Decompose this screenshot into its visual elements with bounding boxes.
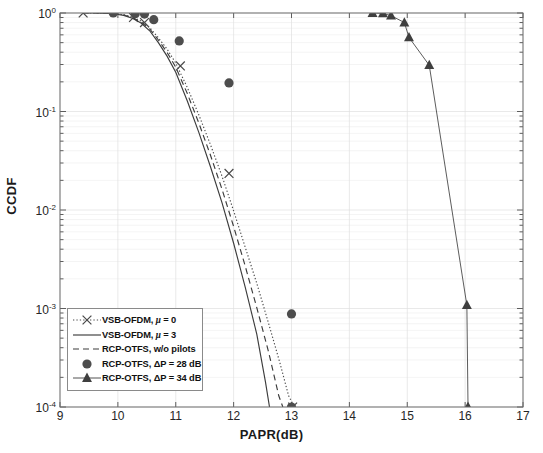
legend-label: RCP-OTFS, ΔP = 34 dB — [102, 373, 201, 383]
x-tick-label: 9 — [57, 409, 64, 423]
legend-item[interactable]: VSB-OFDM, μ = 3 — [72, 328, 197, 343]
legend-sample-line-icon — [72, 342, 102, 356]
legend-sample-x-icon — [72, 313, 102, 327]
chart-figure: 10010-110-210-310-4 91011121314151617 CC… — [0, 0, 543, 453]
legend-item[interactable]: RCP-OTFS, w/o pilots — [72, 342, 197, 357]
chart-legend[interactable]: VSB-OFDM, μ = 0VSB-OFDM, μ = 3RCP-OTFS, … — [67, 308, 203, 391]
y-axis-tick-labels: 10010-110-210-310-4 — [0, 0, 56, 453]
legend-item[interactable]: RCP-OTFS, ΔP = 34 dB — [72, 371, 197, 386]
x-tick-label: 17 — [516, 409, 529, 423]
legend-item[interactable]: RCP-OTFS, ΔP = 28 dB — [72, 357, 197, 372]
y-tick-label: 10-1 — [6, 104, 56, 119]
legend-label: VSB-OFDM, μ = 0 — [102, 315, 176, 325]
legend-sample-triangle-icon — [72, 371, 102, 385]
legend-label: VSB-OFDM, μ = 3 — [102, 330, 176, 340]
series-triangle-solid-thin — [368, 8, 473, 411]
x-axis-label: PAPR(dB) — [0, 427, 543, 442]
x-tick-label: 10 — [111, 409, 124, 423]
x-tick-label: 15 — [401, 409, 414, 423]
x-tick-label: 13 — [285, 409, 298, 423]
y-tick-label: 100 — [6, 6, 56, 21]
y-axis-label: CCDF — [4, 177, 19, 214]
legend-label: RCP-OTFS, w/o pilots — [102, 344, 196, 354]
y-tick-label: 10-3 — [6, 301, 56, 316]
legend-sample-line-icon — [72, 328, 102, 342]
legend-item[interactable]: VSB-OFDM, μ = 0 — [72, 313, 197, 328]
legend-sample-circle-icon — [72, 357, 102, 371]
x-tick-label: 16 — [458, 409, 471, 423]
x-tick-label: 14 — [343, 409, 356, 423]
x-tick-label: 12 — [227, 409, 240, 423]
x-tick-label: 11 — [170, 409, 182, 423]
legend-label: RCP-OTFS, ΔP = 28 dB — [102, 359, 201, 369]
y-tick-label: 10-4 — [6, 400, 56, 415]
